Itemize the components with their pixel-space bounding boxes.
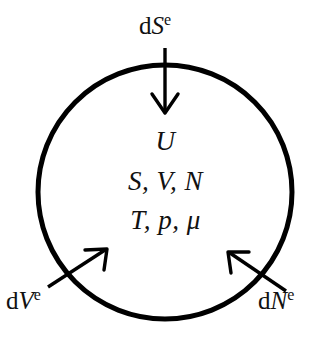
thermodynamic-system-diagram: U S, V, N T, p, μ dSe dVe dNe — [0, 0, 331, 359]
entropy-flux-label: dSe — [139, 13, 171, 38]
volume-flux-symbol: V — [19, 287, 34, 314]
internal-energy-label: U — [0, 126, 331, 157]
interior-state-variables: U S, V, N T, p, μ — [0, 126, 331, 236]
volume-flux-label: dVe — [6, 288, 41, 313]
particle-flux-prefix: d — [258, 287, 271, 314]
particle-flux-symbol: N — [271, 287, 288, 314]
entropy-flux-prefix: d — [139, 12, 152, 39]
particle-flux-superscript: e — [287, 286, 294, 303]
volume-flux-superscript: e — [34, 286, 41, 303]
extensive-variables-label: S, V, N — [0, 166, 331, 197]
particle-flux-arrow — [228, 252, 286, 291]
intensive-variables-label: T, p, μ — [0, 205, 331, 236]
entropy-flux-superscript: e — [164, 11, 171, 28]
entropy-flux-arrow — [152, 48, 178, 113]
entropy-flux-symbol: S — [152, 12, 165, 39]
particle-flux-label: dNe — [258, 288, 294, 313]
volume-flux-prefix: d — [6, 287, 19, 314]
